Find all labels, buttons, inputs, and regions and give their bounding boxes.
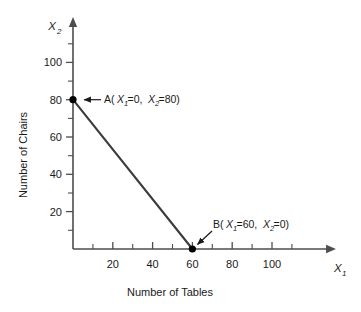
data-point-a-label-eq1: =0, [128,93,143,105]
data-point-a-marker [69,96,76,103]
data-point-b-marker [189,245,196,252]
x-tick-label-80: 80 [226,258,238,270]
x-tick-label-40: 40 [146,258,158,270]
y-tick-label-60: 60 [50,131,62,143]
y-axis-symbol: X [47,20,57,32]
x-tick-label-100: 100 [263,258,281,270]
x-axis-symbol-subscript: 1 [342,269,346,278]
data-point-b-leader-arrow-icon [198,231,213,245]
constraint-line-chart: 100 80 60 40 20 X 2 Number of Chairs [0,0,361,312]
chart-container: 100 80 60 40 20 X 2 Number of Chairs [0,0,361,312]
y-tick-label-80: 80 [50,94,62,106]
constraint-line-segment [73,100,192,249]
y-tick-label-20: 20 [50,206,62,218]
data-point-a: A( X 1 =0, X 2 =80) [69,93,179,108]
data-point-a-label-prefix: A( [104,93,115,105]
x-tick-label-60: 60 [186,258,198,270]
data-point-b-label-eq2: =0) [274,218,289,230]
x-axis: 20 40 60 80 100 X 1 Number of Tables [73,242,346,298]
data-point-a-label-eq2: =80) [159,93,180,105]
y-tick-label-100: 100 [44,56,62,68]
x-tick-label-20: 20 [107,258,119,270]
y-axis: 100 80 60 40 20 X 2 Number of Chairs [17,20,73,249]
y-axis-symbol-subscript: 2 [56,27,62,36]
data-point-b-label-prefix: B( [213,218,224,230]
y-axis-title: Number of Chairs [17,111,29,198]
x-axis-title: Number of Tables [127,286,214,298]
data-point-b-label-eq1: =60, [237,218,258,230]
data-series-constraint-line [73,100,192,249]
data-point-b: B( X 1 =60, X 2 =0) [189,218,289,253]
y-tick-label-40: 40 [50,168,62,180]
